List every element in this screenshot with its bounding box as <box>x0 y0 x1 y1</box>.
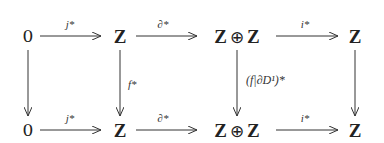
label-bottom-i: i* <box>301 112 310 124</box>
node-top-0: 0 <box>23 28 34 45</box>
node-top-z2: Z <box>349 27 362 46</box>
z-symbol: Z <box>214 26 227 47</box>
node-bottom-zz: Z⊕Z <box>214 121 259 140</box>
label-vertical-restrict: (f|∂D¹)* <box>246 73 285 88</box>
label-top-i: i* <box>301 18 310 30</box>
label-top-d: ∂* <box>158 18 169 30</box>
oplus-symbol: ⊕ <box>230 28 244 47</box>
arrows-layer <box>0 0 384 143</box>
z-symbol: Z <box>214 120 227 141</box>
node-bottom-z1: Z <box>114 121 127 140</box>
node-bottom-z2: Z <box>349 121 362 140</box>
oplus-symbol: ⊕ <box>230 122 244 141</box>
label-bottom-j: j* <box>66 112 75 124</box>
z-symbol: Z <box>247 26 260 47</box>
label-top-j: j* <box>66 18 75 30</box>
label-bottom-d: ∂* <box>158 112 169 124</box>
node-top-zz: Z⊕Z <box>214 27 259 46</box>
label-vertical-f: f* <box>128 78 137 90</box>
z-symbol: Z <box>247 120 260 141</box>
node-bottom-0: 0 <box>23 122 34 139</box>
node-top-z1: Z <box>114 27 127 46</box>
